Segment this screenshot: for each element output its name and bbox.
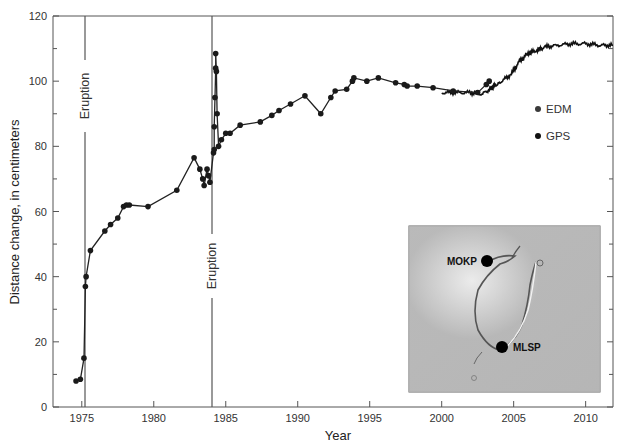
mokp-station-marker	[481, 255, 493, 267]
edm-data-point	[83, 284, 89, 290]
edm-data-point	[376, 75, 382, 81]
legend: EDM GPS	[535, 103, 572, 142]
edm-data-point	[174, 188, 180, 194]
x-tick-label: 1980	[142, 412, 166, 424]
edm-legend-marker	[535, 106, 541, 112]
y-axis-title: Distance change, in centimeters	[7, 119, 22, 304]
edm-data-point	[393, 80, 399, 86]
y-tick-label: 80	[35, 140, 47, 152]
edm-data-point	[364, 78, 370, 84]
edm-data-point	[258, 119, 264, 125]
edm-data-point	[219, 137, 225, 143]
edm-data-point	[237, 122, 243, 128]
edm-data-point	[404, 83, 410, 89]
gps-series	[442, 42, 613, 95]
edm-data-point	[486, 78, 492, 84]
edm-data-point	[288, 101, 294, 107]
x-axis-ticks: 19751980198519901995200020052010	[70, 401, 598, 424]
eruption-label-1: Eruption	[78, 73, 92, 120]
edm-data-point	[200, 176, 206, 182]
y-tick-label: 20	[35, 336, 47, 348]
edm-data-point	[126, 202, 132, 208]
edm-data-point	[318, 111, 324, 117]
edm-data-point	[212, 95, 218, 101]
x-tick-label: 2010	[573, 412, 597, 424]
edm-data-point	[88, 248, 94, 254]
y-tick-label: 100	[29, 75, 47, 87]
edm-data-point	[206, 173, 212, 179]
edm-data-point	[214, 69, 220, 75]
chart: 020406080100120 197519801985199019952000…	[0, 0, 622, 447]
edm-data-point	[216, 144, 222, 150]
mlsp-station-marker	[496, 341, 508, 353]
edm-data-point	[102, 228, 108, 234]
edm-data-point	[332, 88, 338, 94]
edm-data-point	[328, 95, 334, 101]
edm-data-point	[430, 85, 436, 91]
edm-data-point	[302, 93, 308, 99]
edm-data-point	[227, 131, 233, 137]
edm-data-point	[207, 179, 213, 185]
edm-data-point	[191, 155, 197, 161]
edm-data-point	[83, 274, 89, 280]
edm-data-point	[351, 75, 357, 81]
x-tick-label: 2005	[501, 412, 525, 424]
y-tick-label: 60	[35, 206, 47, 218]
mokp-label: MOKP	[447, 256, 477, 267]
x-tick-label: 1995	[357, 412, 381, 424]
edm-data-point	[145, 204, 151, 210]
edm-data-point	[450, 88, 456, 94]
gps-legend-label: GPS	[546, 130, 571, 142]
x-tick-label: 1990	[285, 412, 309, 424]
edm-data-point	[276, 108, 282, 114]
edm-data-point	[213, 51, 219, 57]
eruption-marker-1975: Eruption	[78, 16, 92, 407]
eruption-label-2: Eruption	[205, 243, 219, 290]
edm-data-point	[269, 113, 275, 119]
y-tick-label: 120	[29, 10, 47, 22]
edm-data-point	[78, 377, 84, 383]
edm-legend-label: EDM	[546, 103, 572, 115]
edm-data-point	[414, 83, 420, 89]
edm-data-point	[115, 215, 121, 221]
edm-data-point	[214, 111, 220, 117]
x-tick-label: 1975	[70, 412, 94, 424]
y-tick-label: 0	[41, 401, 47, 413]
edm-data-point	[108, 222, 114, 228]
x-tick-label: 2000	[429, 412, 453, 424]
gps-legend-marker	[535, 133, 541, 139]
x-tick-label: 1985	[214, 412, 238, 424]
inset-map: MOKP MLSP	[409, 226, 600, 392]
edm-data-point	[81, 355, 87, 361]
edm-data-point	[201, 183, 207, 189]
edm-data-point	[475, 90, 481, 96]
x-axis-title: Year	[325, 428, 352, 443]
y-tick-label: 40	[35, 271, 47, 283]
edm-data-point	[204, 166, 210, 172]
edm-data-point	[211, 124, 217, 130]
edm-data-point	[344, 87, 350, 93]
edm-data-point	[197, 166, 203, 172]
mlsp-label: MLSP	[513, 342, 541, 353]
